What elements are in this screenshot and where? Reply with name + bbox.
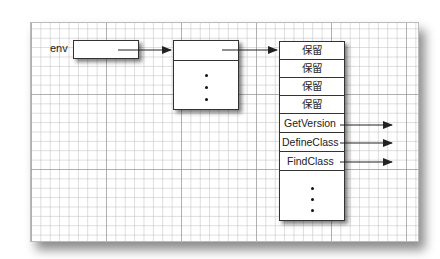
arrows-layer — [0, 0, 440, 259]
